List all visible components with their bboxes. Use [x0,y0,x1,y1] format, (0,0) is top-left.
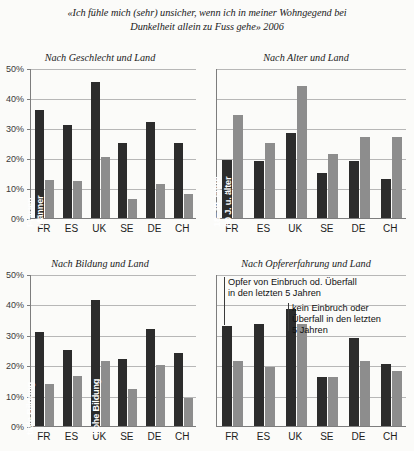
x-axis-label-geschlecht-UK: UK [85,223,113,234]
x-axis-label-alter-SE: SE [311,223,343,234]
gridline [217,159,406,160]
gridline [31,159,196,160]
y-tick-mark [27,366,31,367]
y-axis-label-10pct: 10% [6,392,24,402]
x-axis-label-opfererfahrung-UK: UK [279,431,311,442]
series-label-alter-1: 18–39 Jahre [212,177,222,227]
y-axis-label-30pct: 30% [6,124,24,134]
gridline [31,397,196,398]
bar-opfererfahrung-ES-series2 [265,367,275,426]
x-axis-label-bildung-CH: CH [168,431,196,442]
x-axis-label-geschlecht-ES: ES [58,223,86,234]
y-axis-label-0pct: 0% [11,422,24,432]
chart-opfererfahrung: Nach Opfererfahrung und LandFRESUKSEDECH… [206,258,406,449]
bar-bildung-SE-series1 [118,359,127,426]
x-axis-label-geschlecht-SE: SE [113,223,141,234]
gridline [31,275,196,276]
bar-alter-CH-series2 [392,137,402,218]
bar-geschlecht-UK-series1 [91,82,100,219]
bar-geschlecht-DE-series2 [156,184,165,219]
series-label-bildung-1: tiefe Bildung [25,382,35,435]
y-tick-mark [27,275,31,276]
bar-alter-DE-series1 [349,161,359,218]
bar-geschlecht-CH-series1 [174,143,183,218]
bar-geschlecht-ES-series2 [73,181,82,219]
annotation-leader-opfer [224,277,225,325]
bar-alter-ES-series2 [265,143,275,218]
x-axis-label-alter-CH: CH [374,223,406,234]
bar-geschlecht-DE-series1 [146,122,155,218]
chart-title-bildung: Nach Bildung und Land [0,258,200,269]
gridline [31,305,196,306]
annotation-leader-kein-opfer [288,303,289,331]
bar-bildung-SE-series2 [128,389,137,426]
bar-opfererfahrung-SE-series1 [317,377,327,426]
bar-alter-UK-series2 [297,86,307,218]
y-tick-mark [27,159,31,160]
bar-alter-CH-series1 [381,179,391,218]
x-axis-label-bildung-DE: DE [141,431,169,442]
x-axis-label-opfererfahrung-ES: ES [248,431,280,442]
bar-bildung-CH-series2 [184,398,193,426]
y-tick-mark [27,129,31,130]
page-title-line-1: «Ich fühle mich (sehr) unsicher, wenn ic… [12,6,402,20]
bar-opfererfahrung-ES-series1 [254,324,264,426]
chart-alter: Nach Alter und LandFRESUKSEDECH18–39 Jah… [206,52,406,241]
infographic-page: «Ich fühle mich (sehr) unsicher, wenn ic… [0,0,414,451]
series-label-alter-2: 60 J. u. älter [223,177,233,227]
y-axis-label-40pct: 40% [6,94,24,104]
bar-opfererfahrung-CH-series2 [392,371,402,426]
gridline [217,99,406,100]
bar-bildung-UK-series2 [101,361,110,426]
y-axis-label-20pct: 20% [6,361,24,371]
bar-alter-UK-series1 [286,133,296,219]
bar-geschlecht-CH-series2 [184,194,193,218]
y-axis-label-40pct: 40% [6,300,24,310]
y-axis-label-0pct: 0% [11,214,24,224]
gridline [217,69,406,70]
bar-alter-SE-series1 [317,173,327,218]
y-tick-mark [27,336,31,337]
gridline [31,336,196,337]
y-axis-label-50pct: 50% [6,64,24,74]
x-axis-label-alter-ES: ES [248,223,280,234]
bar-bildung-FR-series1 [35,332,44,426]
x-axis-label-geschlecht-DE: DE [141,223,169,234]
x-axis-label-geschlecht-CH: CH [168,223,196,234]
bar-bildung-DE-series1 [146,329,155,426]
chart-title-geschlecht: Nach Geschlecht und Land [0,52,200,63]
bar-opfererfahrung-FR-series1 [222,326,232,426]
y-tick-mark [27,189,31,190]
gridline [217,397,406,398]
series-label-geschlecht-2: Männer [35,196,45,227]
plot-area-bildung [30,275,196,427]
bar-bildung-ES-series2 [73,376,82,426]
gridline [31,366,196,367]
bar-geschlecht-SE-series1 [118,143,127,218]
gridline [31,99,196,100]
gridline [31,189,196,190]
y-tick-mark [27,99,31,100]
bar-geschlecht-FR-series2 [45,180,54,218]
y-tick-mark [27,305,31,306]
bar-bildung-CH-series1 [174,353,183,426]
chart-geschlecht: Nach Geschlecht und Land0%10%20%30%40%50… [0,52,200,241]
bar-alter-DE-series2 [360,137,370,218]
y-tick-mark [27,69,31,70]
bar-geschlecht-SE-series2 [128,199,137,219]
chart-bildung: Nach Bildung und Land0%10%20%30%40%50%FR… [0,258,200,449]
bar-bildung-DE-series2 [156,365,165,426]
x-axis-label-opfererfahrung-CH: CH [374,431,406,442]
bar-bildung-ES-series1 [63,350,72,426]
page-title-line-2: Dunkelheit allein zu Fuss gehe» 2006 [12,20,402,34]
x-axis-label-opfererfahrung-DE: DE [343,431,375,442]
bar-opfererfahrung-CH-series1 [381,364,391,426]
annotation-kein-opfer: kein Einbruch oder Überfall in den letzt… [292,303,381,337]
bar-opfererfahrung-SE-series2 [328,377,338,426]
plot-area-geschlecht [30,69,196,219]
gridline [217,275,406,276]
plot-area-alter [216,69,406,219]
bar-opfererfahrung-DE-series2 [360,361,370,426]
bar-geschlecht-UK-series2 [101,157,110,218]
y-axis-label-30pct: 30% [6,331,24,341]
